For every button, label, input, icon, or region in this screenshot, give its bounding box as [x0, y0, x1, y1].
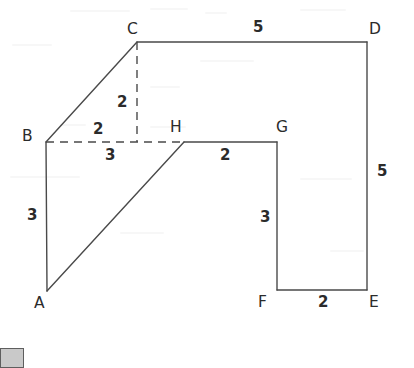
- measure-BH-lower: 3: [105, 148, 115, 163]
- vertex-label-d: D: [369, 22, 381, 38]
- vertex-label-e: E: [369, 295, 379, 311]
- measure-FG: 3: [260, 210, 270, 225]
- measure-BH-upper: 2: [93, 122, 103, 137]
- measure-EF: 2: [318, 295, 328, 310]
- vertex-label-g: G: [276, 120, 288, 136]
- edge-H-A: [47, 142, 184, 291]
- measure-C-vertical: 2: [117, 95, 127, 110]
- vertex-label-c: C: [127, 22, 138, 38]
- dashed-edge-group: [46, 42, 184, 142]
- corner-swatch: [0, 348, 24, 368]
- measure-GH: 2: [220, 148, 230, 163]
- measure-CD: 5: [253, 20, 263, 35]
- vertex-label-h: H: [170, 120, 182, 136]
- edge-A-B: [46, 142, 47, 291]
- vertex-label-a: A: [34, 296, 45, 312]
- edge-B-C: [46, 42, 137, 142]
- measure-DE: 5: [377, 164, 387, 179]
- vertex-label-f: F: [258, 295, 267, 311]
- solid-edge-group: [46, 42, 367, 291]
- measure-AB: 3: [27, 208, 37, 223]
- vertex-label-b: B: [22, 129, 33, 145]
